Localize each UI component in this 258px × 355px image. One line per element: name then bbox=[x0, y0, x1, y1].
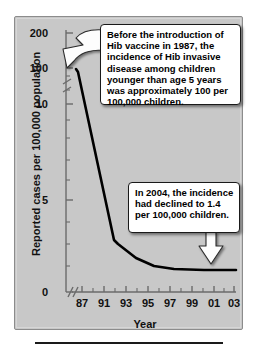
x-tick-label-87: 87 bbox=[71, 298, 93, 309]
callout-hib-vaccine-introduction: Before the introduction of Hib vaccine i… bbox=[100, 24, 241, 105]
x-axis-major-ticks bbox=[82, 286, 234, 292]
x-tick-label-91: 91 bbox=[93, 298, 115, 309]
y-tick-label-200: 200 bbox=[18, 28, 48, 39]
footer-divider bbox=[35, 342, 223, 344]
y-axis-title: Reported cases per 100,000 population bbox=[30, 56, 42, 256]
y-axis-major-ticks bbox=[66, 33, 73, 292]
y-tick-label-0: 0 bbox=[18, 287, 48, 298]
x-tick-label-99: 99 bbox=[181, 298, 203, 309]
x-tick-label-95: 95 bbox=[137, 298, 159, 309]
callout-2004-incidence: In 2004, the incidence had declined to 1… bbox=[128, 182, 240, 233]
x-tick-label-93: 93 bbox=[115, 298, 137, 309]
x-tick-label-01: 01 bbox=[203, 298, 225, 309]
x-tick-label-97: 97 bbox=[159, 298, 181, 309]
x-tick-label-03: 03 bbox=[223, 298, 245, 309]
x-axis-title: Year bbox=[55, 318, 235, 330]
figure-container: 200 100 10 5 0 87 91 93 95 97 99 01 03 R… bbox=[0, 0, 258, 355]
